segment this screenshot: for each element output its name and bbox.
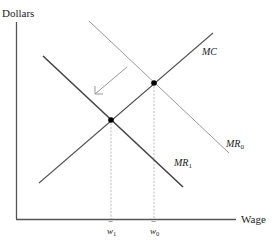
diagram: Dollars Wage MC MR0 MR1 ¯ w1 ¯ w0 (0, 0, 273, 248)
mr1-label: MR1 (173, 157, 192, 170)
shift-arrow-icon (95, 67, 127, 94)
mr0-label: MR0 (225, 138, 244, 151)
x-axis-label: Wage (241, 213, 266, 225)
svg-text:w1: w1 (107, 226, 116, 237)
tick-w0: ¯ w0 (150, 221, 159, 237)
tick-w1: ¯ w1 (107, 221, 116, 237)
diagram-canvas: Dollars Wage MC MR0 MR1 ¯ w1 ¯ w0 (0, 0, 273, 248)
mr0-curve (89, 21, 229, 153)
equilibrium-point-1 (108, 117, 114, 123)
equilibrium-point-0 (151, 80, 157, 86)
y-axis-label: Dollars (2, 7, 34, 19)
svg-text:w0: w0 (150, 226, 159, 237)
mc-label: MC (201, 46, 217, 57)
